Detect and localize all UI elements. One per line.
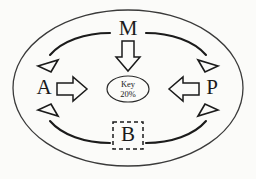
diagram-svg: Key 20% M A P B bbox=[0, 0, 256, 179]
block-arrow-p-to-key bbox=[169, 77, 199, 101]
node-label-p: P bbox=[206, 75, 218, 99]
block-arrow-a-to-key bbox=[57, 77, 87, 101]
key-label-line2: 20% bbox=[120, 89, 136, 99]
curved-arrow-b-to-p bbox=[146, 104, 218, 143]
node-label-b: B bbox=[121, 122, 135, 146]
diagram-canvas: Key 20% M A P B bbox=[0, 0, 256, 179]
curved-arrow-b-to-a bbox=[38, 104, 110, 143]
node-label-a: A bbox=[36, 75, 52, 99]
curved-arrow-m-to-p bbox=[146, 33, 218, 72]
key-node: Key 20% bbox=[107, 76, 149, 102]
key-label-line1: Key bbox=[121, 79, 136, 89]
block-arrow-m-to-key bbox=[116, 41, 140, 71]
curved-arrow-m-to-a bbox=[38, 33, 110, 72]
node-label-m: M bbox=[119, 16, 138, 40]
